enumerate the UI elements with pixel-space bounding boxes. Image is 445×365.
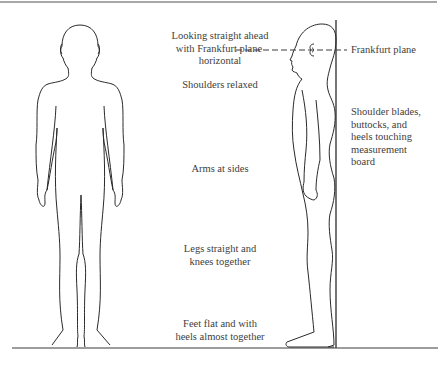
front-right-inner-leg <box>81 195 86 347</box>
label-shoulders-relaxed: Shoulders relaxed <box>160 79 280 92</box>
diagram-canvas: Looking straight ahead with Frankfurt pl… <box>0 0 445 365</box>
front-left-inner-leg <box>76 195 81 347</box>
label-board-line1: Shoulder blades, <box>351 106 421 119</box>
front-view-figure <box>36 25 124 347</box>
side-view-figure <box>286 24 336 347</box>
label-frankfurt-plane: Frankfurt plane <box>351 44 416 57</box>
label-legs-line1: Legs straight and <box>160 243 280 256</box>
side-arm-outline <box>302 90 320 200</box>
side-front-outline <box>286 46 334 347</box>
label-looking-line3: horizontal <box>160 55 280 68</box>
label-board-line5: board <box>351 156 421 169</box>
front-left-side-outline <box>36 25 80 206</box>
front-right-side-outline <box>80 25 124 206</box>
label-looking-line2: with Frankfurt plane <box>160 43 280 56</box>
label-legs-line2: knees together <box>160 256 280 269</box>
label-arms-at-sides: Arms at sides <box>160 163 280 176</box>
front-left-outer-leg <box>52 128 63 345</box>
label-feet-line1: Feet flat and with <box>150 318 290 331</box>
label-board-line4: measurement <box>351 144 421 157</box>
label-feet-flat: Feet flat and with heels almost together <box>150 318 290 343</box>
label-feet-line2: heels almost together <box>150 331 290 344</box>
label-looking-line1: Looking straight ahead <box>160 30 280 43</box>
label-legs-straight: Legs straight and knees together <box>160 243 280 268</box>
label-board-line3: heels touching <box>351 131 421 144</box>
label-looking-straight: Looking straight ahead with Frankfurt pl… <box>160 30 280 68</box>
label-measurement-board: Shoulder blades, buttocks, and heels tou… <box>351 106 421 169</box>
label-board-line2: buttocks, and <box>351 119 421 132</box>
